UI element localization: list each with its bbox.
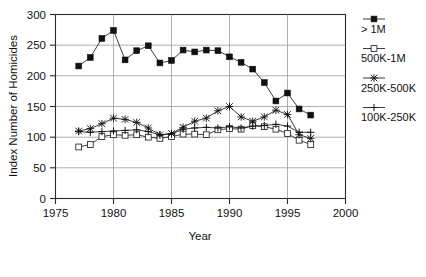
data-point xyxy=(134,48,140,54)
data-point xyxy=(226,103,234,111)
data-point xyxy=(98,120,106,128)
data-point xyxy=(273,98,279,104)
x-tick-label-1985: 1985 xyxy=(159,207,185,219)
x-tick-label-1990: 1990 xyxy=(217,207,243,219)
legend-item-100k-250k[interactable]: 100K-250K xyxy=(361,104,417,123)
data-point xyxy=(296,106,302,112)
data-point xyxy=(261,80,267,86)
legend-item-500k-1m[interactable]: 500K-1M xyxy=(361,46,406,64)
data-point xyxy=(308,112,314,118)
legend-label: 500K-1M xyxy=(361,52,406,64)
chart-legend: > 1M500K-1M250K-500K100K-250K xyxy=(361,16,417,123)
data-point xyxy=(192,49,198,55)
y-tick-label-300: 300 xyxy=(27,9,46,21)
data-point xyxy=(214,107,222,115)
x-tick-label-1975: 1975 xyxy=(43,207,69,219)
x-tick-label-2000: 2000 xyxy=(333,207,359,219)
data-point xyxy=(99,36,105,42)
data-point xyxy=(227,54,233,60)
data-point xyxy=(237,113,245,121)
data-point xyxy=(169,58,175,64)
data-point xyxy=(215,48,221,54)
legend-label: 250K-500K xyxy=(361,82,417,94)
x-axis-title: Year xyxy=(188,230,211,242)
data-point xyxy=(76,144,82,150)
legend-marker-open-square-icon xyxy=(371,46,377,52)
x-tick-labels: 1975 1980 1985 1990 1995 2000 xyxy=(43,207,359,219)
y-tick-label-100: 100 xyxy=(27,131,46,143)
data-point xyxy=(192,131,198,137)
y-axis-title: Index Number of Homicides xyxy=(7,35,19,177)
data-point xyxy=(285,131,291,137)
chart-svg: 0 50 100 150 200 250 300 1975 1980 1985 … xyxy=(0,0,426,277)
y-tick-label-150: 150 xyxy=(27,101,46,113)
data-point xyxy=(87,55,93,61)
data-point xyxy=(203,114,211,122)
legend-label: 100K-250K xyxy=(361,111,417,123)
legend-marker-filled-square-icon xyxy=(371,16,377,22)
data-point xyxy=(133,119,141,127)
data-point xyxy=(87,142,93,148)
legend-label: > 1M xyxy=(361,23,386,35)
data-point xyxy=(122,57,128,63)
data-point xyxy=(110,114,118,122)
x-tick-label-1995: 1995 xyxy=(275,207,301,219)
data-point xyxy=(284,111,292,119)
y-tick-labels: 0 50 100 150 200 250 300 xyxy=(27,9,46,205)
legend-item--1m[interactable]: > 1M xyxy=(361,16,386,34)
data-point xyxy=(261,113,269,121)
data-point xyxy=(250,66,256,72)
data-point xyxy=(191,117,199,125)
data-point xyxy=(76,63,82,69)
y-tick-label-0: 0 xyxy=(40,193,46,205)
chart-figure: 0 50 100 150 200 250 300 1975 1980 1985 … xyxy=(0,0,426,277)
data-point xyxy=(121,116,129,124)
y-tick-label-200: 200 xyxy=(27,70,46,82)
data-point xyxy=(308,142,314,148)
x-tick-label-1980: 1980 xyxy=(101,207,127,219)
data-point xyxy=(145,43,151,49)
data-point xyxy=(203,132,209,138)
data-point xyxy=(203,47,209,53)
data-point xyxy=(285,90,291,96)
data-point xyxy=(111,28,117,34)
data-point xyxy=(180,47,186,53)
legend-item-250k-500k[interactable]: 250K-500K xyxy=(361,74,417,93)
y-tick-label-50: 50 xyxy=(33,162,46,174)
data-point xyxy=(238,59,244,65)
y-tick-label-250: 250 xyxy=(27,39,46,51)
data-point xyxy=(272,106,280,114)
data-point xyxy=(157,60,163,66)
